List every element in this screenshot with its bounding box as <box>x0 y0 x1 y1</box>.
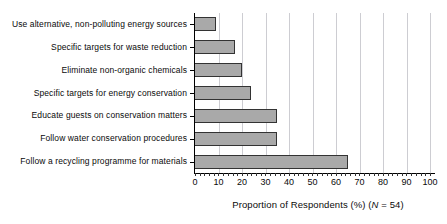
x-axis-tick-label: 10 <box>213 177 223 187</box>
y-axis-labels: Use alternative, non-polluting energy so… <box>0 13 187 173</box>
x-axis-title-suffix: = 54) <box>379 199 404 210</box>
y-axis-tick <box>190 24 194 25</box>
gridline <box>313 13 314 173</box>
y-axis-tick <box>190 93 194 94</box>
bar <box>195 40 235 54</box>
x-axis-tick-labels: 0102030405060708090100 <box>195 173 435 187</box>
category-label: Follow a recycling programme for materia… <box>20 156 187 167</box>
category-label: Eliminate non-organic chemicals <box>62 65 187 76</box>
gridline <box>383 13 384 173</box>
bar <box>195 17 216 31</box>
bar <box>195 109 277 123</box>
x-axis-tick-label: 60 <box>331 177 341 187</box>
gridline <box>430 13 431 173</box>
bar-chart: Use alternative, non-polluting energy so… <box>0 0 447 224</box>
x-axis-tick-label: 90 <box>401 177 411 187</box>
x-axis-tick-label: 70 <box>354 177 364 187</box>
y-axis-tick <box>190 116 194 117</box>
plot-area: 0102030405060708090100 <box>194 13 435 174</box>
gridline <box>336 13 337 173</box>
x-axis-tick-label: 40 <box>284 177 294 187</box>
x-axis-title: Proportion of Respondents (%) (N = 54) <box>194 199 442 210</box>
category-label: Use alternative, non-polluting energy so… <box>12 19 187 30</box>
gridline <box>289 13 290 173</box>
x-axis-tick-label: 50 <box>307 177 317 187</box>
x-axis-title-prefix: Proportion of Respondents (%) ( <box>232 199 371 210</box>
category-label: Specific targets for energy conservation <box>34 88 187 99</box>
x-axis-tick-label: 80 <box>378 177 388 187</box>
gridline <box>266 13 267 173</box>
x-axis-tick-label: 0 <box>192 177 197 187</box>
y-axis-tick <box>190 162 194 163</box>
x-axis-tick-label: 20 <box>237 177 247 187</box>
category-label: Educate guests on conservation matters <box>32 110 187 121</box>
y-axis-tick <box>190 70 194 71</box>
x-axis-tick-label: 30 <box>260 177 270 187</box>
bar <box>195 132 277 146</box>
bar <box>195 63 242 77</box>
y-axis-tick <box>190 139 194 140</box>
bar <box>195 86 251 100</box>
x-axis-title-n: N <box>372 199 379 210</box>
category-label: Follow water conservation procedures <box>40 133 187 144</box>
y-axis-tick <box>190 47 194 48</box>
gridline <box>360 13 361 173</box>
bar <box>195 155 348 169</box>
gridline <box>407 13 408 173</box>
category-label: Specific targets for waste reduction <box>51 42 187 53</box>
x-axis-tick-label: 100 <box>422 177 437 187</box>
